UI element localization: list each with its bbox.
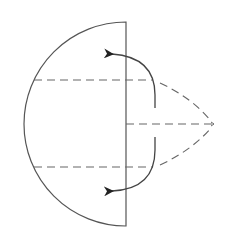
lower-cone-edge: [160, 129, 210, 165]
upper-cone-edge: [160, 83, 210, 120]
lower-curved-arrow: [112, 137, 155, 191]
half-disk-outline: [24, 22, 126, 226]
diagram-svg: [0, 0, 230, 248]
diagram-canvas: [0, 0, 230, 248]
upper-curved-arrow: [112, 54, 155, 108]
